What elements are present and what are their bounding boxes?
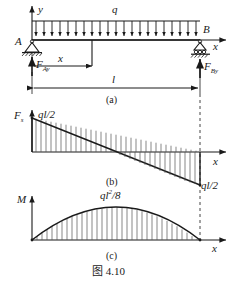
support-roller-right <box>191 40 210 58</box>
shear-value-left: ql/2 <box>38 109 55 120</box>
panel-b-shear-diagram <box>31 110 226 186</box>
panel-b-x-axis-label: x <box>213 156 218 167</box>
moment-endpoint-left <box>31 239 34 242</box>
panel-c-y-axis-label: M <box>17 194 26 205</box>
figure-caption: 图 4.10 <box>92 266 125 277</box>
reaction-label-right-symbol: F <box>204 60 211 72</box>
moment-peak-symbol: ql <box>100 189 109 201</box>
figure-container: y x q A B FAy FBy x l (a) Fs ql/2 x ql/2… <box>0 0 232 283</box>
reaction-label-right-sub: By <box>211 67 218 75</box>
reaction-label-left: FAy <box>36 59 50 73</box>
reaction-label-right: FBy <box>204 61 218 75</box>
panel-b-y-axis-sub: s <box>21 116 24 124</box>
span-dimension-line <box>32 60 200 94</box>
panel-b-hatching <box>36 119 196 152</box>
distributed-load-arrows <box>36 21 196 36</box>
moment-peak-label: ql2/8 <box>100 189 121 201</box>
panel-c-hatching <box>37 207 197 240</box>
panel-a-beam-diagram <box>22 6 226 94</box>
figure-drawing <box>0 0 232 283</box>
panel-b-y-axis-symbol: F <box>14 109 21 121</box>
shear-value-right: ql/2 <box>201 180 218 191</box>
moment-endpoint-right <box>199 239 202 242</box>
reaction-label-left-symbol: F <box>36 58 43 70</box>
panel-b-y-axis-label: Fs <box>14 110 23 124</box>
section-distance-label: x <box>58 53 63 64</box>
panel-b-caption: (b) <box>106 177 118 187</box>
reaction-label-left-sub: Ay <box>43 65 50 73</box>
panel-c-x-axis-label: x <box>212 243 217 254</box>
panel-c-caption: (c) <box>106 251 117 261</box>
panel-a-x-axis-label: x <box>213 41 218 52</box>
distributed-load-label: q <box>112 4 118 15</box>
panel-c-moment-diagram <box>31 196 226 241</box>
support-label-b: B <box>203 24 210 35</box>
shear-endpoint-left <box>31 117 34 120</box>
span-length-label: l <box>112 74 115 85</box>
panel-a-y-axis-label: y <box>38 4 43 15</box>
support-label-a: A <box>15 36 22 47</box>
panel-a-caption: (a) <box>106 95 117 105</box>
moment-peak-tail: /8 <box>112 189 121 201</box>
